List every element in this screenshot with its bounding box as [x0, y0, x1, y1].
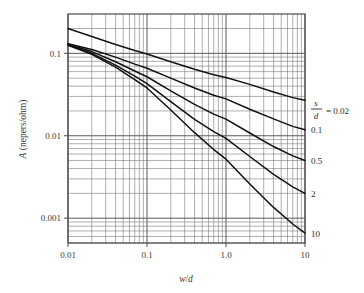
loglog-attenuation-chart: 0.010.11.010 0.10.010.001 0.10.5210 w/d … — [0, 0, 364, 293]
x-tick-label: 10 — [301, 250, 311, 260]
legend-equals-value: = 0.02 — [326, 106, 349, 116]
x-tick-label: 0.1 — [141, 250, 152, 260]
x-tick-label: 1.0 — [220, 250, 232, 260]
series-label-0p1: 0.1 — [311, 125, 322, 135]
legend-denominator: d — [314, 111, 319, 121]
y-tick-label: 0.01 — [45, 131, 61, 141]
y-tick-label: 0.1 — [50, 49, 61, 59]
chart-figure: 0.010.11.010 0.10.010.001 0.10.5210 w/d … — [0, 0, 364, 293]
x-axis-title: w/d — [179, 274, 193, 284]
y-axis-title: A (nepers/ohm) — [18, 100, 29, 160]
y-tick-label: 0.001 — [41, 213, 61, 223]
series-label-2: 2 — [311, 189, 316, 199]
series-label-0p5: 0.5 — [311, 156, 323, 166]
legend-numerator: s — [314, 98, 318, 108]
x-tick-label: 0.01 — [60, 250, 76, 260]
series-label-10: 10 — [311, 229, 321, 239]
